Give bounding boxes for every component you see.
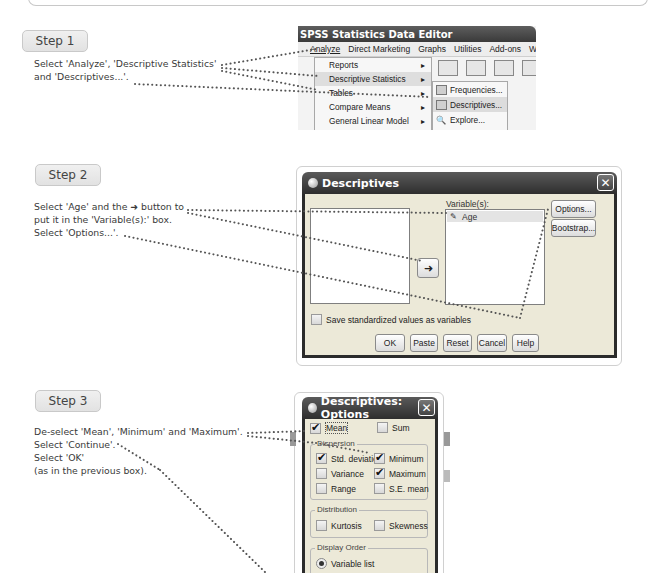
submenu-item-descriptives[interactable]: Descriptives... [433, 97, 507, 112]
maximum-checkbox[interactable]: Maximum [374, 468, 426, 479]
instruction-line: Select 'Continue'. [34, 438, 243, 451]
menu-item-generalized-linear-models[interactable]: Generalized Linear Models▸ [315, 128, 431, 130]
source-variable-list[interactable] [310, 208, 410, 304]
minimum-checkbox[interactable]: Minimum [374, 453, 423, 464]
menu-window[interactable]: Windo [529, 44, 536, 54]
checkbox [316, 483, 327, 494]
step-1-label: Step 1 [22, 30, 88, 52]
spss-app-icon [308, 178, 318, 188]
std-deviation-checkbox[interactable]: Std. deviation [316, 453, 383, 464]
scale-variable-icon: ✎ [450, 212, 457, 221]
sum-checkbox[interactable]: Sum [377, 422, 409, 433]
variable-list-radio[interactable]: Variable list [316, 558, 374, 569]
instruction-line: (as in the previous box). [34, 464, 243, 477]
mean-checkbox[interactable]: Mean [310, 422, 348, 434]
background-grid-cell [290, 432, 296, 446]
explore-icon: 🔍 [436, 115, 447, 125]
instruction-line: Select 'Age' and the ➜ button to [34, 200, 184, 213]
variables-list[interactable]: ✎ Age [445, 209, 545, 305]
crosstabs-icon [436, 130, 447, 131]
ok-button[interactable]: OK [375, 334, 405, 352]
descriptives-title-bar: Descriptives ✕ [302, 172, 617, 194]
arrow-right-icon: ➜ [424, 262, 433, 275]
submenu-arrow-icon: ▸ [421, 74, 425, 84]
instruction-line: Select 'Analyze', 'Descriptive Statistic… [34, 57, 216, 70]
submenu-arrow-icon: ▸ [421, 102, 425, 112]
range-checkbox[interactable]: Range [316, 483, 356, 494]
menu-bar: Analyze Direct Marketing Graphs Utilitie… [298, 42, 536, 57]
step-3-instructions: De-select 'Mean', 'Minimum' and 'Maximum… [34, 425, 243, 477]
descriptives-dialog: Descriptives ✕ ➜ Variable(s): ✎ Age Opti… [302, 194, 617, 358]
find-icon[interactable] [438, 60, 458, 76]
spss-title-bar: SPSS Statistics Data Editor [298, 26, 536, 42]
menu-direct-marketing[interactable]: Direct Marketing [348, 44, 410, 54]
table-icon[interactable] [522, 60, 536, 76]
menu-item-general-linear-model[interactable]: General Linear Model▸ [315, 114, 431, 128]
paste-button[interactable]: Paste [410, 334, 438, 352]
submenu-arrow-icon: ▸ [421, 60, 425, 70]
descriptive-statistics-submenu: Frequencies... Descriptives... 🔍Explore.… [432, 81, 508, 130]
menu-item-tables[interactable]: Tables▸ [315, 86, 431, 100]
instruction-line: and 'Descriptives...'. [34, 70, 216, 83]
options-button[interactable]: Options... [551, 200, 596, 218]
analyze-menu: Reports▸ Descriptive Statistics▸ Tables▸… [314, 57, 432, 130]
menu-item-compare-means[interactable]: Compare Means▸ [315, 100, 431, 114]
step-2-label: Step 2 [35, 164, 101, 186]
checkbox[interactable] [377, 422, 388, 433]
spss-app-icon [308, 403, 317, 413]
submenu-item-crosstabs[interactable]: Crosstabs... [433, 127, 507, 130]
menu-graphs[interactable]: Graphs [418, 44, 446, 54]
checkbox [316, 453, 327, 464]
checkbox [374, 483, 385, 494]
checkbox [374, 520, 385, 531]
dispersion-group: Dispersion Std. deviation Minimum Varian… [310, 444, 428, 500]
save-standardized-checkbox[interactable]: Save standardized values as variables [311, 314, 471, 325]
submenu-arrow-icon: ▸ [421, 88, 425, 98]
checkbox [316, 520, 327, 531]
variable-item-age[interactable]: ✎ Age [447, 211, 543, 222]
descriptives-icon [436, 100, 447, 110]
checkbox [374, 453, 385, 464]
dialog-title: Descriptives [322, 177, 399, 190]
help-button[interactable]: Help [512, 334, 539, 352]
variables-label: Variable(s): [446, 199, 489, 209]
variance-checkbox[interactable]: Variance [316, 468, 364, 479]
goto-case-icon[interactable] [466, 60, 486, 76]
bootstrap-button[interactable]: Bootstrap... [551, 219, 596, 237]
checkbox[interactable] [311, 314, 322, 325]
step-1-instructions: Select 'Analyze', 'Descriptive Statistic… [34, 57, 216, 83]
cancel-button[interactable]: Cancel [477, 334, 507, 352]
menu-add-ons[interactable]: Add-ons [489, 44, 521, 54]
variables-icon[interactable] [494, 60, 514, 76]
submenu-arrow-icon: ▸ [421, 116, 425, 126]
close-button[interactable]: ✕ [597, 174, 614, 191]
menu-item-descriptive-statistics[interactable]: Descriptive Statistics▸ [315, 72, 431, 86]
menu-item-reports[interactable]: Reports▸ [315, 58, 431, 72]
reset-button[interactable]: Reset [443, 334, 472, 352]
se-mean-checkbox[interactable]: S.E. mean [374, 483, 429, 494]
distribution-group: Distribution Kurtosis Skewness [310, 510, 428, 538]
instruction-line: Select 'Options...'. [34, 226, 184, 239]
radio-button [316, 558, 327, 569]
background-grid-cell [444, 470, 450, 482]
menu-analyze[interactable]: Analyze [310, 44, 340, 54]
checkbox[interactable] [310, 423, 321, 434]
submenu-item-frequencies[interactable]: Frequencies... [433, 82, 507, 97]
display-order-group: Display Order Variable list [310, 548, 428, 573]
instruction-line: De-select 'Mean', 'Minimum' and 'Maximum… [34, 425, 243, 438]
close-button[interactable]: ✕ [418, 399, 435, 416]
instruction-line: Select 'OK' [34, 451, 243, 464]
step-2-instructions: Select 'Age' and the ➜ button to put it … [34, 200, 184, 239]
frequencies-icon [436, 85, 447, 95]
step-3-label: Step 3 [35, 390, 101, 412]
move-variable-button[interactable]: ➜ [417, 258, 439, 278]
checkbox [316, 468, 327, 479]
checkbox [374, 468, 385, 479]
spss-data-editor-window: SPSS Statistics Data Editor Analyze Dire… [298, 26, 536, 130]
kurtosis-checkbox[interactable]: Kurtosis [316, 520, 362, 531]
page-frame-top [28, 0, 648, 6]
submenu-item-explore[interactable]: 🔍Explore... [433, 112, 507, 127]
instruction-line: put it in the 'Variable(s):' box. [34, 213, 184, 226]
skewness-checkbox[interactable]: Skewness [374, 520, 428, 531]
menu-utilities[interactable]: Utilities [454, 44, 481, 54]
